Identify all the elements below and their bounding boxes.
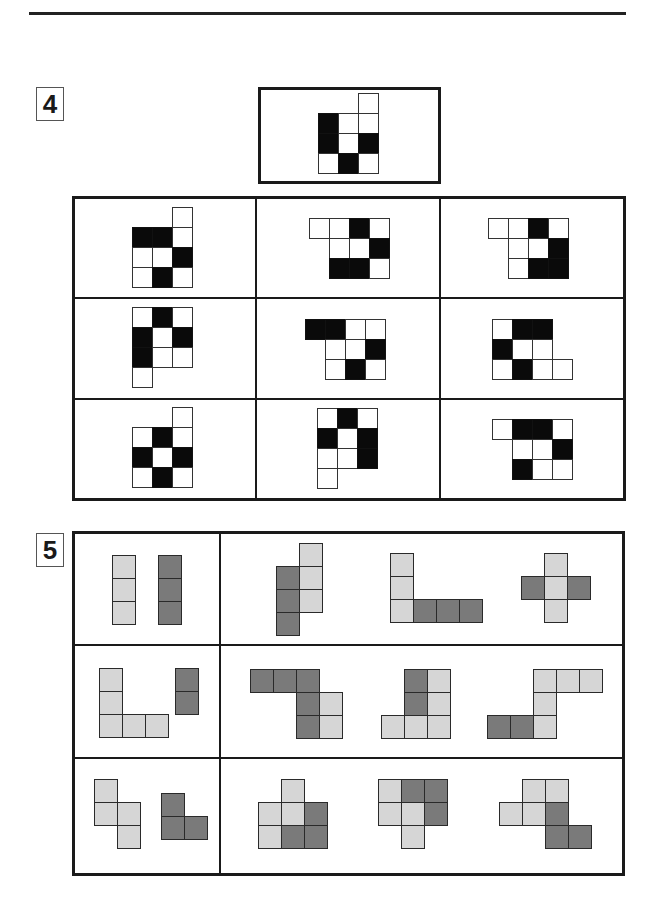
grid-cell-dark-gray — [158, 555, 182, 579]
grid-cell-white — [532, 439, 553, 460]
grid-cell-light-gray — [319, 692, 343, 716]
grid-cell-light-gray — [99, 668, 123, 692]
grid-cell-white — [532, 339, 553, 360]
grid-cell-white — [172, 267, 193, 288]
grid-cell-black — [305, 319, 326, 340]
grid-cell-dark-gray — [304, 825, 328, 849]
grid-cell-dark-gray — [184, 816, 208, 840]
grid-cell-black — [172, 247, 193, 268]
grid-cell-white — [172, 347, 193, 368]
grid-cell-white — [325, 359, 346, 380]
q4-row-divider-1 — [73, 297, 625, 299]
grid-cell-light-gray — [556, 669, 580, 693]
q5-row-divider-2 — [73, 757, 624, 759]
grid-cell-dark-gray — [161, 793, 185, 817]
grid-cell-white — [345, 319, 366, 340]
grid-cell-black — [172, 327, 193, 348]
grid-cell-white — [512, 439, 533, 460]
grid-cell-white — [345, 339, 366, 360]
grid-cell-white — [132, 467, 153, 488]
grid-cell-white — [532, 459, 553, 480]
q4-col-divider-2 — [439, 197, 441, 499]
grid-cell-white — [325, 339, 346, 360]
grid-cell-black — [152, 427, 173, 448]
grid-cell-black — [132, 347, 153, 368]
grid-cell-black — [132, 447, 153, 468]
grid-cell-white — [552, 359, 573, 380]
grid-cell-dark-gray — [273, 669, 297, 693]
grid-cell-light-gray — [99, 714, 123, 738]
grid-cell-black — [492, 339, 513, 360]
grid-cell-black — [338, 153, 359, 174]
grid-cell-white — [338, 113, 359, 134]
grid-cell-white — [492, 359, 513, 380]
grid-cell-white — [492, 419, 513, 440]
grid-cell-black — [318, 133, 339, 154]
grid-cell-dark-gray — [567, 576, 591, 600]
grid-cell-black — [528, 218, 549, 239]
grid-cell-light-gray — [94, 779, 118, 803]
grid-cell-white — [172, 227, 193, 248]
grid-cell-white — [132, 247, 153, 268]
grid-cell-light-gray — [533, 692, 557, 716]
grid-cell-white — [358, 113, 379, 134]
grid-cell-black — [345, 359, 366, 380]
grid-cell-white — [512, 339, 533, 360]
grid-cell-white — [309, 218, 330, 239]
grid-cell-dark-gray — [161, 816, 185, 840]
grid-cell-light-gray — [281, 779, 305, 803]
grid-cell-light-gray — [533, 715, 557, 739]
grid-cell-dark-gray — [296, 692, 320, 716]
grid-cell-black — [512, 319, 533, 340]
grid-cell-light-gray — [427, 715, 451, 739]
grid-cell-light-gray — [579, 669, 603, 693]
grid-cell-dark-gray — [250, 669, 274, 693]
grid-cell-black — [329, 258, 350, 279]
grid-cell-light-gray — [299, 589, 323, 613]
grid-cell-white — [528, 238, 549, 259]
grid-cell-black — [512, 419, 533, 440]
grid-cell-white — [548, 218, 569, 239]
grid-cell-light-gray — [533, 669, 557, 693]
grid-cell-light-gray — [319, 715, 343, 739]
grid-cell-black — [152, 227, 173, 248]
grid-cell-black — [349, 258, 370, 279]
grid-cell-black — [152, 307, 173, 328]
grid-cell-white — [152, 247, 173, 268]
grid-cell-light-gray — [427, 669, 451, 693]
grid-cell-white — [172, 207, 193, 228]
grid-cell-light-gray — [390, 599, 414, 623]
grid-cell-dark-gray — [401, 779, 425, 803]
grid-cell-black — [357, 448, 378, 469]
grid-cell-light-gray — [258, 825, 282, 849]
grid-cell-white — [132, 367, 153, 388]
grid-cell-white — [508, 258, 529, 279]
grid-cell-light-gray — [112, 578, 136, 602]
grid-cell-white — [358, 93, 379, 114]
grid-cell-black — [512, 459, 533, 480]
grid-cell-light-gray — [122, 714, 146, 738]
grid-cell-light-gray — [381, 715, 405, 739]
grid-cell-white — [132, 267, 153, 288]
grid-cell-white — [132, 427, 153, 448]
grid-cell-light-gray — [378, 802, 402, 826]
question-5-number: 5 — [36, 533, 64, 567]
grid-cell-black — [548, 238, 569, 259]
grid-cell-black — [152, 267, 173, 288]
grid-cell-light-gray — [544, 599, 568, 623]
grid-cell-dark-gray — [296, 669, 320, 693]
grid-cell-light-gray — [499, 802, 523, 826]
grid-cell-light-gray — [145, 714, 169, 738]
grid-cell-black — [337, 408, 358, 429]
grid-cell-black — [132, 327, 153, 348]
grid-cell-black — [369, 238, 390, 259]
top-rule — [29, 12, 626, 15]
grid-cell-light-gray — [281, 802, 305, 826]
q4-row-divider-2 — [73, 398, 625, 400]
grid-cell-dark-gray — [175, 668, 199, 692]
grid-cell-dark-gray — [436, 599, 460, 623]
grid-cell-white — [532, 359, 553, 380]
grid-cell-white — [329, 238, 350, 259]
grid-cell-black — [358, 133, 379, 154]
grid-cell-dark-gray — [158, 601, 182, 625]
